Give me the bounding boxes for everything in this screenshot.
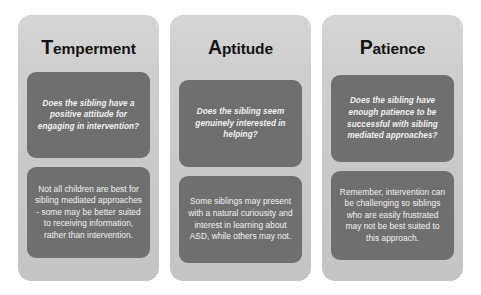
card-temperment-question-box: Does the sibling have a positive attitud… [27,72,150,158]
three-column-card-diagram: Temperment Does the sibling have a posit… [0,0,481,295]
card-temperment-statement-text: Not all children are best for sibling me… [34,184,143,242]
card-aptitude-statement-text: Some siblings may present with a natural… [186,196,295,242]
card-temperment-heading: Temperment [27,38,150,62]
card-patience-statement-box: Remember, intervention can be challengin… [331,171,454,260]
card-aptitude-question-text: Does the sibling seem genuinely interest… [186,106,295,141]
card-patience-heading: Patience [331,38,454,62]
card-aptitude-heading-initial: A [208,36,222,58]
card-temperment-statement-box: Not all children are best for sibling me… [27,167,150,258]
card-aptitude: Aptitude Does the sibling seem genuinely… [170,15,311,281]
card-temperment: Temperment Does the sibling have a posit… [18,15,159,281]
card-temperment-question-text: Does the sibling have a positive attitud… [34,98,143,133]
card-aptitude-heading-rest: ptitude [222,40,273,57]
card-patience-heading-rest: atience [373,40,426,57]
card-temperment-heading-initial: T [41,36,53,58]
card-aptitude-heading: Aptitude [179,38,302,62]
card-patience-statement-text: Remember, intervention can be challengin… [338,187,447,245]
card-patience: Patience Does the sibling have enough pa… [322,15,463,281]
card-patience-question-box: Does the sibling have enough patience to… [331,75,454,162]
card-aptitude-statement-box: Some siblings may present with a natural… [179,176,302,263]
card-patience-question-text: Does the sibling have enough patience to… [338,95,447,142]
card-aptitude-question-box: Does the sibling seem genuinely interest… [179,80,302,167]
card-temperment-heading-rest: emperment [53,40,136,57]
card-patience-heading-initial: P [360,36,373,58]
